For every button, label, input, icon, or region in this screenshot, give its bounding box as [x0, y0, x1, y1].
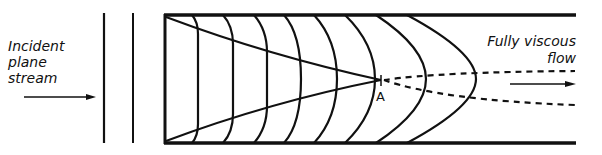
velocity-profile-5 [314, 15, 337, 143]
velocity-profiles [192, 15, 476, 143]
velocity-profile-1 [192, 15, 198, 143]
velocity-profile-4 [284, 15, 301, 143]
dashed-extensions [384, 71, 575, 105]
fully-viscous-flow-label: Fully viscous flow [487, 33, 576, 66]
label-line-plane: plane [7, 54, 47, 70]
velocity-profile-8 [407, 15, 476, 143]
incident-arrow-icon [24, 94, 96, 100]
point-a-label: A [376, 89, 385, 104]
label-line-flow: flow [547, 50, 577, 66]
pipe-entrance-flow-diagram: Incident plane stream A [0, 0, 602, 155]
incident-stream-label: Incident plane stream [7, 38, 65, 86]
velocity-profile-6 [345, 15, 375, 143]
label-line-fully-viscous: Fully viscous [487, 33, 576, 49]
velocity-profile-7 [376, 15, 426, 143]
velocity-profile-3 [254, 15, 267, 143]
velocity-profile-2 [223, 15, 233, 143]
outflow-arrow-icon [510, 81, 576, 87]
label-line-stream: stream [8, 70, 57, 86]
label-line-incident: Incident [8, 38, 65, 54]
dashed-extension-upper [384, 71, 575, 80]
